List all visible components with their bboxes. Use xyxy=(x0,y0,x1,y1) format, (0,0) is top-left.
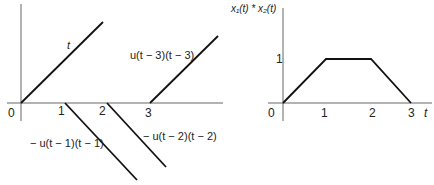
label-t: t xyxy=(67,40,70,51)
right-x-tick-2: 2 xyxy=(369,107,376,119)
left-tick-2: 2 xyxy=(99,105,106,117)
left-tick-3: 3 xyxy=(145,107,152,119)
label-neg-u-t-2: − u(t − 2)(t − 2) xyxy=(143,131,217,142)
right-origin-label: 0 xyxy=(268,107,275,119)
curve-t xyxy=(21,22,103,103)
right-y-axis-label: x₁(t) * x₂(t) xyxy=(231,4,276,14)
curve-u-t-3 xyxy=(150,36,218,103)
right-x-axis-label: t xyxy=(424,107,427,119)
convolution-trapezoid xyxy=(283,59,411,103)
label-u-t-3: u(t − 3)(t − 3) xyxy=(130,50,194,61)
left-origin-label: 0 xyxy=(8,107,15,119)
diagram-canvas xyxy=(0,0,434,185)
right-x-tick-3: 3 xyxy=(408,107,415,119)
left-tick-1: 1 xyxy=(58,105,65,117)
right-y-tick-1: 1 xyxy=(276,53,283,65)
right-x-tick-1: 1 xyxy=(321,107,328,119)
label-neg-u-t-1: − u(t − 1)(t − 1) xyxy=(30,138,104,149)
